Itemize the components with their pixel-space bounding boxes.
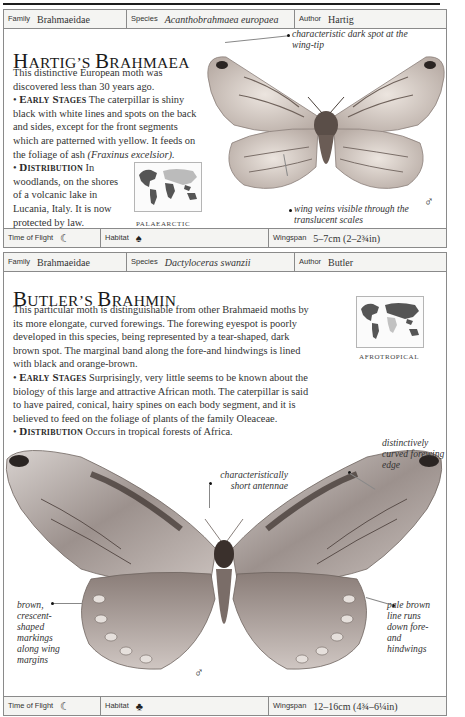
- early-stages-paragraph: • Early Stages Surprisingly, very little…: [13, 371, 313, 425]
- male-symbol: ♂: [424, 194, 434, 210]
- male-symbol: ♂: [194, 665, 204, 681]
- author-label: Author: [299, 257, 321, 266]
- annotation-short-antennae: characteristically short antennae: [208, 469, 288, 491]
- annotation-wing-veins: wing veins visible through the transluce…: [294, 203, 414, 225]
- author-value: Hartig: [328, 14, 354, 25]
- intro-paragraph: This distinctive European moth was disco…: [13, 66, 203, 93]
- species-value: Dactyloceras swanzii: [165, 257, 251, 268]
- annotation-wing-tip-spot: characteristic dark spot at the wing-tip: [292, 28, 412, 50]
- wingspan-cell: Wingspan 5–7cm (2–2¾in): [269, 229, 446, 247]
- map-caption: Afrotropical: [359, 353, 419, 361]
- time-of-flight-cell: Time of Flight ☾: [4, 697, 101, 715]
- deciduous-tree-icon: ♠: [136, 233, 142, 244]
- moon-icon: ☾: [60, 701, 70, 712]
- entry-header-row: Family Brahmaeidae Species Acanthobrahma…: [4, 10, 446, 29]
- description-text: This particular moth is distinguishable …: [13, 303, 313, 439]
- early-stages-paragraph: • Early Stages The caterpillar is shiny …: [13, 93, 203, 161]
- time-of-flight-cell: Time of Flight ☾: [4, 229, 101, 247]
- world-map-afrotropical: [356, 296, 424, 348]
- entry-footer-row: Time of Flight ☾ Habitat ♣ Wingspan 12–1…: [4, 696, 446, 715]
- early-stages-heading: Early Stages: [19, 371, 86, 383]
- entry-footer-row: Time of Flight ☾ Habitat ♠ Wingspan 5–7c…: [4, 228, 446, 247]
- habitat-cell: Habitat ♠: [101, 229, 269, 247]
- distribution-paragraph: • Distribution Occurs in tropical forest…: [13, 425, 313, 439]
- wingspan-value: 5–7cm (2–2¾in): [313, 233, 380, 244]
- intro-paragraph: This particular moth is distinguishable …: [13, 303, 313, 371]
- family-label: Family: [8, 257, 30, 266]
- world-map-palaearctic: [134, 162, 202, 212]
- species-label: Species: [131, 257, 158, 266]
- palm-tree-icon: ♣: [136, 701, 143, 712]
- species-cell: Species Dactyloceras swanzii: [127, 253, 295, 271]
- wingspan-label: Wingspan: [273, 701, 306, 710]
- species-cell: Species Acanthobrahmaea europaea: [127, 10, 295, 28]
- author-cell: Author Butler: [295, 253, 446, 271]
- family-value: Brahmaeidae: [37, 257, 90, 268]
- wingspan-cell: Wingspan 12–16cm (4¾–6¼in): [269, 697, 446, 715]
- distribution-heading: Distribution: [19, 161, 83, 173]
- wingspan-label: Wingspan: [273, 233, 306, 242]
- annotation-leader-line: [209, 484, 210, 508]
- time-of-flight-label: Time of Flight: [8, 701, 53, 710]
- family-cell: Family Brahmaeidae: [4, 10, 127, 28]
- moon-icon: ☾: [60, 233, 70, 244]
- annotation-leader-line: [54, 603, 82, 604]
- annotation-leader-line: [225, 35, 289, 43]
- entry-header-row: Family Brahmaeidae Species Dactyloceras …: [4, 253, 446, 272]
- habitat-cell: Habitat ♣: [101, 697, 269, 715]
- map-caption: Palaearctic: [136, 220, 190, 228]
- hartigs-brahmaea-moth-illustration: [204, 47, 448, 197]
- species-label: Species: [131, 14, 158, 23]
- author-label: Author: [299, 14, 321, 23]
- top-rule: [3, 3, 440, 5]
- family-label: Family: [8, 14, 30, 23]
- annotation-crescent-markings: brown, crescent-shaped markings along wi…: [17, 599, 67, 665]
- annotation-curved-forewing: distinctively curved forewing edge: [382, 437, 452, 470]
- wingspan-value: 12–16cm (4¾–6¼in): [313, 701, 397, 712]
- habitat-label: Habitat: [105, 701, 129, 710]
- world-map-icon: [357, 297, 424, 348]
- habitat-label: Habitat: [105, 233, 129, 242]
- author-cell: Author Hartig: [295, 10, 446, 28]
- early-stages-heading: Early Stages: [19, 93, 86, 105]
- family-value: Brahmaeidae: [37, 14, 90, 25]
- annotation-dot: [287, 34, 290, 37]
- species-entry-hartigs-brahmaea: Family Brahmaeidae Species Acanthobrahma…: [3, 9, 447, 248]
- family-cell: Family Brahmaeidae: [4, 253, 127, 271]
- annotation-dot: [289, 209, 292, 212]
- distribution-paragraph: • Distribution In woodlands, on the shor…: [13, 161, 123, 229]
- author-value: Butler: [328, 257, 353, 268]
- species-value: Acanthobrahmaea europaea: [165, 14, 279, 25]
- distribution-heading: Distribution: [19, 425, 83, 437]
- time-of-flight-label: Time of Flight: [8, 233, 53, 242]
- world-map-icon: [135, 163, 202, 212]
- annotation-pale-brown-line: pale brown line runs down fore-and hindw…: [387, 599, 435, 654]
- species-entry-butlers-brahmin: Family Brahmaeidae Species Dactyloceras …: [3, 252, 447, 716]
